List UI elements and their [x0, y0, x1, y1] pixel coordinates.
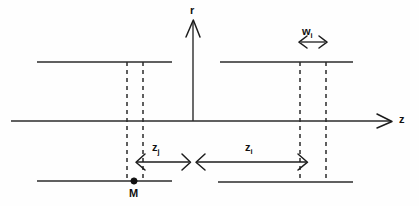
- r-axis-label: r: [190, 5, 194, 16]
- wi-label-base: w: [302, 25, 311, 37]
- zj-label-subscript: j: [158, 147, 160, 156]
- wi-dimension-label: wi: [302, 26, 313, 40]
- wi-label-subscript: i: [311, 31, 313, 40]
- point-M-marker: [131, 178, 137, 184]
- zj-dimension-arrow: [136, 154, 191, 170]
- point-M-group: [131, 178, 137, 184]
- z-axis-label: z: [399, 114, 405, 125]
- zi-label-subscript: i: [251, 147, 253, 156]
- figure-canvas: r z wi zj zi M: [0, 0, 419, 206]
- z-axis-group: [11, 114, 392, 128]
- zj-dimension-label: zj: [152, 142, 160, 156]
- dashed-markers-group: [127, 62, 326, 182]
- zi-dimension-label: zi: [245, 142, 253, 156]
- point-M-label: M: [129, 188, 138, 199]
- diagram-svg: [0, 0, 419, 206]
- r-axis-group: [186, 20, 200, 121]
- zi-dimension-arrow: [196, 154, 308, 170]
